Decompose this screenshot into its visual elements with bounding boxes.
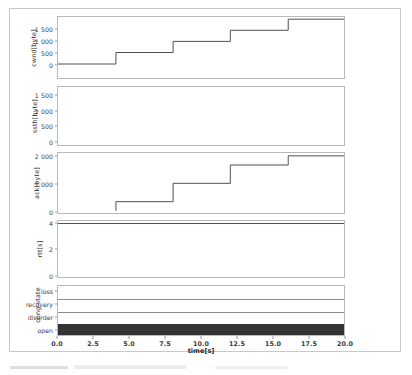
xtick-mark-3 xyxy=(165,336,166,339)
rtt-ytick-mark-2 xyxy=(55,223,58,224)
ack-axes xyxy=(57,152,345,214)
xtick-7: 17.5 xyxy=(301,340,317,348)
rtt-ytick-2: 4 xyxy=(49,220,53,227)
cong-state-ytick-mark-disorder xyxy=(55,316,58,317)
ssth-series-svg xyxy=(58,87,344,145)
ack-axis-label: ack[byte] xyxy=(33,155,41,211)
scan-artifact-left xyxy=(10,366,68,369)
ssth-axis-label: ssth[byte] xyxy=(31,88,39,144)
ssth-ytick-mark-2 xyxy=(55,110,58,111)
cwnd-axes xyxy=(57,16,345,79)
xtick-mark-6 xyxy=(273,336,274,339)
cwnd-ytick-mark-3 xyxy=(55,29,58,30)
xtick-1: 2.5 xyxy=(87,340,98,348)
xtick-3: 7.5 xyxy=(159,340,170,348)
cwnd-axis-label: cwnd[byte] xyxy=(30,20,38,76)
ssth-ytick-1: 500 xyxy=(41,123,53,130)
xtick-mark-4 xyxy=(201,336,202,339)
scan-artifact-right xyxy=(215,366,287,369)
cwnd-ytick-mark-1 xyxy=(55,52,58,53)
cong-state-ytick-mark-recovery xyxy=(55,304,58,305)
cong-state-separator-loss-recovery xyxy=(58,299,345,300)
subplot-ssth: 0 500 1 000 1 500 ssth[byte] xyxy=(57,86,345,146)
xtick-mark-2 xyxy=(129,336,130,339)
subplot-rtt: 0 2 4 rtt[s] xyxy=(57,220,345,278)
ack-ytick-0: 0 xyxy=(49,208,53,215)
cwnd-ytick-0: 0 xyxy=(49,61,53,68)
ack-ytick-mark-2 xyxy=(55,156,58,157)
rtt-axes xyxy=(57,220,345,278)
xtick-mark-0 xyxy=(57,336,58,339)
subplot-cwnd: 0 500 1 000 1 500 cwnd[byte] xyxy=(57,16,345,79)
xtick-mark-8 xyxy=(345,336,346,339)
xtick-8: 20.0 xyxy=(337,340,353,348)
ack-series-svg xyxy=(58,153,344,213)
x-axis-label: time[s] xyxy=(188,347,215,355)
rtt-series-svg xyxy=(58,221,344,277)
xtick-mark-1 xyxy=(93,336,94,339)
cong-state-axis-label: cong-state xyxy=(34,263,42,347)
rtt-ytick-0: 0 xyxy=(49,272,53,279)
subplot-ack: 0 1 000 2 000 ack[byte] xyxy=(57,152,345,214)
cong-state-band-open xyxy=(58,324,345,336)
cong-state-ytick-loss: loss xyxy=(41,288,53,295)
ssth-ytick-mark-3 xyxy=(55,94,58,95)
cwnd-step-line xyxy=(58,19,344,64)
rtt-ytick-mark-1 xyxy=(55,249,58,250)
cong-state-separator-recovery-disorder xyxy=(58,312,345,313)
cwnd-series-svg xyxy=(58,17,344,78)
ssth-ytick-mark-0 xyxy=(55,142,58,143)
cong-state-ytick-mark-open xyxy=(55,329,58,330)
ack-ytick-mark-1 xyxy=(55,183,58,184)
ack-ytick-mark-0 xyxy=(55,211,58,212)
xtick-5: 12.5 xyxy=(229,340,245,348)
cong-state-axes xyxy=(57,285,345,336)
ack-step-line xyxy=(116,156,344,211)
xtick-2: 5.0 xyxy=(123,340,134,348)
cong-state-ytick-mark-loss xyxy=(55,291,58,292)
cwnd-ytick-1: 500 xyxy=(41,49,53,56)
xtick-0: 0.0 xyxy=(51,340,62,348)
rtt-ytick-1: 2 xyxy=(49,246,53,253)
xtick-mark-5 xyxy=(237,336,238,339)
ssth-ytick-mark-1 xyxy=(55,126,58,127)
figure-canvas: 0 500 1 000 1 500 cwnd[byte] 0 500 1 000… xyxy=(0,0,412,375)
xtick-mark-7 xyxy=(309,336,310,339)
scan-artifact-mid xyxy=(74,365,186,369)
ssth-axes xyxy=(57,86,345,146)
rtt-ytick-mark-0 xyxy=(55,275,58,276)
cwnd-ytick-mark-0 xyxy=(55,64,58,65)
subplot-cong-state: open disorder recovery loss cong-state 0… xyxy=(57,285,345,336)
cwnd-ytick-mark-2 xyxy=(55,41,58,42)
xtick-6: 15.0 xyxy=(265,340,281,348)
ssth-ytick-0: 0 xyxy=(49,139,53,146)
